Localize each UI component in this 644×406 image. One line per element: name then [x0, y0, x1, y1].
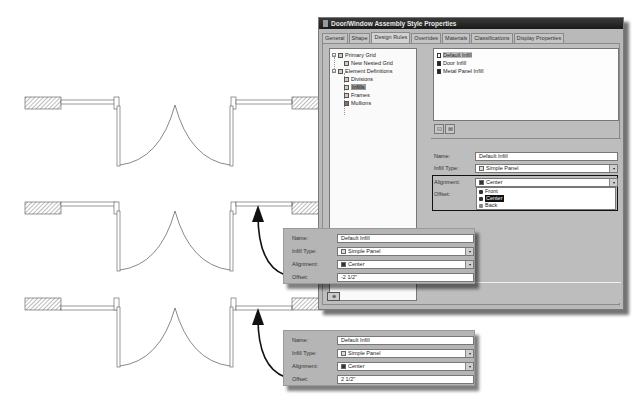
list-item-metal-panel-infill[interactable]: Metal Panel Infill [437, 68, 483, 74]
name-row: Name: Default Infill [434, 151, 618, 161]
callout-panel-positive-offset: Name: Default Infill Infill Type: Simple… [283, 330, 475, 386]
center-align-icon [479, 197, 483, 201]
tree-item-mullions[interactable]: Mullions [344, 100, 371, 106]
tree-item-infills[interactable]: Infills [344, 84, 366, 90]
chevron-down-icon[interactable]: ▾ [465, 350, 473, 357]
infills-icon [344, 85, 349, 90]
tab-general[interactable]: General [322, 33, 348, 43]
divisions-icon [344, 77, 349, 82]
alignment-select[interactable]: Center ▾ [475, 178, 618, 187]
name-label: Name: [292, 235, 337, 241]
alignment-icon [341, 262, 346, 267]
tree-item-primary-grid[interactable]: − Primary Grid [332, 52, 376, 58]
infill-type-row: Infill Type: Simple Panel ▾ [292, 348, 474, 358]
offset-input[interactable]: 2 1/2" [337, 375, 474, 384]
list-buttons: ⊡ ⊠ [434, 124, 455, 134]
infill-type-row: Infill Type: Simple Panel ▾ [434, 163, 618, 173]
offset-label: Offset: [292, 274, 337, 280]
alignment-select[interactable]: Center ▾ [337, 260, 474, 269]
door-assembly-centered [25, 97, 322, 166]
infill-type-select[interactable]: Simple Panel ▾ [475, 164, 618, 173]
infill-type-label: Infill Type: [434, 165, 475, 171]
back-align-icon [479, 204, 483, 208]
alignment-select[interactable]: Center ▾ [337, 362, 474, 371]
dialog-titlebar[interactable]: Door/Window Assembly Style Properties [319, 18, 623, 29]
frames-icon [344, 93, 349, 98]
option-center[interactable]: Center [477, 195, 615, 202]
simple-panel-icon [479, 166, 484, 171]
name-input[interactable]: Default Infill [337, 234, 474, 243]
list-item-door-infill[interactable]: Door Infill [437, 60, 466, 66]
tree-item-element-definitions[interactable]: − Element Definitions [332, 68, 392, 74]
tab-strip: General Shape Design Rules Overrides Mat… [322, 33, 623, 43]
chevron-down-icon[interactable]: ▾ [609, 165, 617, 172]
infill-type-select[interactable]: Simple Panel ▾ [337, 349, 474, 358]
option-back[interactable]: Back [477, 202, 615, 209]
tree-item-new-nested-grid[interactable]: New Nested Grid [344, 60, 393, 66]
collapse-icon[interactable]: − [332, 69, 336, 73]
chevron-down-icon[interactable]: ▾ [609, 179, 617, 186]
panel-icon [437, 53, 441, 58]
alignment-row: Alignment: Center ▾ [434, 177, 618, 187]
tab-display-properties[interactable]: Display Properties [514, 33, 565, 43]
door-icon [437, 61, 441, 66]
option-front[interactable]: Front [477, 188, 615, 195]
front-align-icon [479, 190, 483, 194]
name-input[interactable]: Default Infill [475, 152, 618, 161]
tab-materials[interactable]: Materials [442, 33, 470, 43]
grip-icon[interactable]: ⊕ [327, 292, 340, 301]
list-item-default-infill[interactable]: Default Infill [437, 52, 472, 58]
callout-arrow-2 [252, 308, 285, 377]
offset-label: Offset: [292, 376, 337, 382]
infill-type-row: Infill Type: Simple Panel ▾ [292, 246, 474, 256]
chevron-down-icon[interactable]: ▾ [465, 248, 473, 255]
name-input[interactable]: Default Infill [337, 336, 474, 345]
alignment-label: Alignment: [292, 363, 337, 369]
infill-type-select[interactable]: Simple Panel ▾ [337, 247, 474, 256]
door-assembly-offset-negative [25, 202, 322, 271]
tree-item-divisions[interactable]: Divisions [344, 76, 373, 82]
alignment-label: Alignment: [292, 261, 337, 267]
app-icon [323, 20, 328, 27]
simple-panel-icon [341, 351, 346, 356]
folder-icon [338, 69, 343, 74]
infill-type-label: Infill Type: [292, 248, 337, 254]
new-infill-button[interactable]: ⊡ [434, 124, 444, 134]
alignment-icon [479, 180, 484, 185]
callout-panel-negative-offset: Name: Default Infill Infill Type: Simple… [283, 228, 475, 284]
metal-panel-icon [437, 69, 441, 74]
tab-overrides[interactable]: Overrides [411, 33, 441, 43]
alignment-label: Alignment: [434, 179, 475, 185]
nested-grid-icon [344, 61, 349, 66]
delete-infill-button[interactable]: ⊠ [445, 124, 455, 134]
offset-row: Offset: -2 1/2" [292, 272, 474, 282]
infill-type-label: Infill Type: [292, 350, 337, 356]
offset-input[interactable]: -2 1/2" [337, 273, 474, 282]
offset-label: Offset: [434, 191, 475, 197]
collapse-icon[interactable]: − [332, 53, 336, 57]
simple-panel-icon [341, 249, 346, 254]
mullions-icon [344, 101, 349, 106]
tree-item-frames[interactable]: Frames [344, 92, 370, 98]
door-assembly-offset-positive [25, 298, 322, 367]
alignment-row: Alignment: Center ▾ [292, 259, 474, 269]
name-row: Name: Default Infill [292, 335, 474, 345]
chevron-down-icon[interactable]: ▾ [465, 363, 473, 370]
name-label: Name: [292, 337, 337, 343]
chevron-down-icon[interactable]: ▾ [465, 261, 473, 268]
alignment-row: Alignment: Center ▾ [292, 361, 474, 371]
alignment-icon [341, 364, 346, 369]
offset-row: Offset: 2 1/2" [292, 374, 474, 384]
name-row: Name: Default Infill [292, 233, 474, 243]
dialog-title: Door/Window Assembly Style Properties [331, 18, 456, 29]
tab-design-rules[interactable]: Design Rules [371, 32, 410, 43]
infill-list[interactable]: Default Infill Door Infill Metal Panel I… [433, 48, 619, 121]
tab-shape[interactable]: Shape [349, 33, 371, 43]
alignment-dropdown-list[interactable]: Front Center Back [476, 187, 616, 210]
grid-icon [338, 53, 343, 58]
callout-arrow-1 [252, 205, 285, 275]
tab-classifications[interactable]: Classifications [471, 33, 512, 43]
name-label: Name: [434, 153, 475, 159]
